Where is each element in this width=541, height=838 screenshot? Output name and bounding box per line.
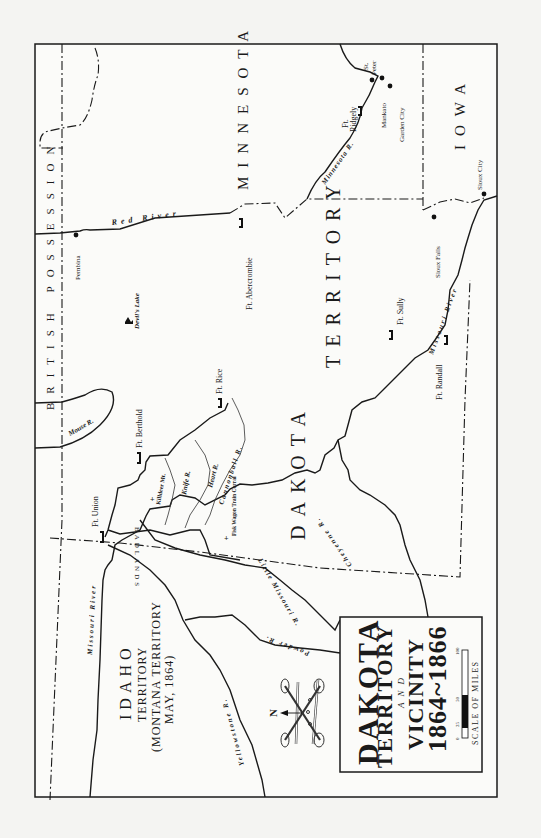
town-dot-pembina — [74, 233, 79, 238]
title-line-2: TERRITORY — [373, 624, 397, 768]
svg-text:50: 50 — [455, 697, 460, 703]
svg-text:100: 100 — [455, 647, 460, 655]
region-minnesota: MINNESOTA — [235, 22, 251, 190]
north-label: N — [267, 709, 279, 717]
label-mankato: Mankato — [380, 103, 388, 128]
town-dot-garden-city — [388, 84, 393, 89]
label-ft-rice: Ft. Rice — [215, 368, 224, 394]
label-ft-randall: Ft. Randall — [435, 364, 444, 400]
region-idaho-territory: TERRITORY — [135, 647, 149, 722]
dakota-territory-map: DAKOTA TERRITORY AND VICINITY 1864~1866 … — [0, 0, 541, 838]
label-sioux-city: Sioux City — [476, 159, 484, 190]
label-ridgely-2: Ridgely — [349, 107, 358, 132]
region-badlands: BADLANDS — [133, 527, 141, 589]
label-garden-city: Garden City — [398, 107, 406, 142]
scale-caption: SCALE OF MILES — [471, 660, 480, 745]
town-dot-mankato — [380, 76, 385, 81]
town-dot-st-peter — [370, 78, 375, 83]
label-pembina: Pembina — [74, 255, 82, 280]
region-territory: TERRITORY — [322, 176, 344, 368]
town-dot-sioux-falls — [432, 215, 437, 220]
fisk-marker-icon: + — [224, 534, 229, 543]
label-ft-union: Ft. Union — [91, 496, 100, 527]
title-line-5: 1864~1866 — [423, 625, 452, 752]
label-ft-abercrombie: Ft. Abercrombie — [245, 257, 254, 310]
town-dot-sioux-city — [482, 192, 487, 197]
region-idaho-montana: (MONTANA TERRITORY — [149, 601, 163, 752]
label-st-peter-1: St. — [362, 62, 370, 70]
killdeer-marker-icon: + — [150, 495, 155, 504]
region-dakota: DAKOTA — [287, 403, 309, 540]
region-iowa: IOWA — [452, 75, 468, 150]
label-st-peter-2: Peter — [370, 60, 378, 75]
label-devils-lake: Devil's Lake — [133, 293, 141, 330]
svg-text:25: 25 — [455, 722, 460, 728]
region-idaho-date: MAY, 1864) — [162, 655, 176, 724]
label-ft-berthold: Ft. Berthold — [135, 409, 144, 448]
label-ft-sully: Ft. Sully — [396, 297, 405, 325]
region-british-possession: BRITISH POSSESSION — [44, 138, 56, 410]
label-fisk: Fisk Wagon Train Corral — [231, 476, 237, 536]
region-idaho: IDAHO — [117, 643, 134, 720]
label-sioux-falls: Sioux Falls — [434, 246, 442, 278]
